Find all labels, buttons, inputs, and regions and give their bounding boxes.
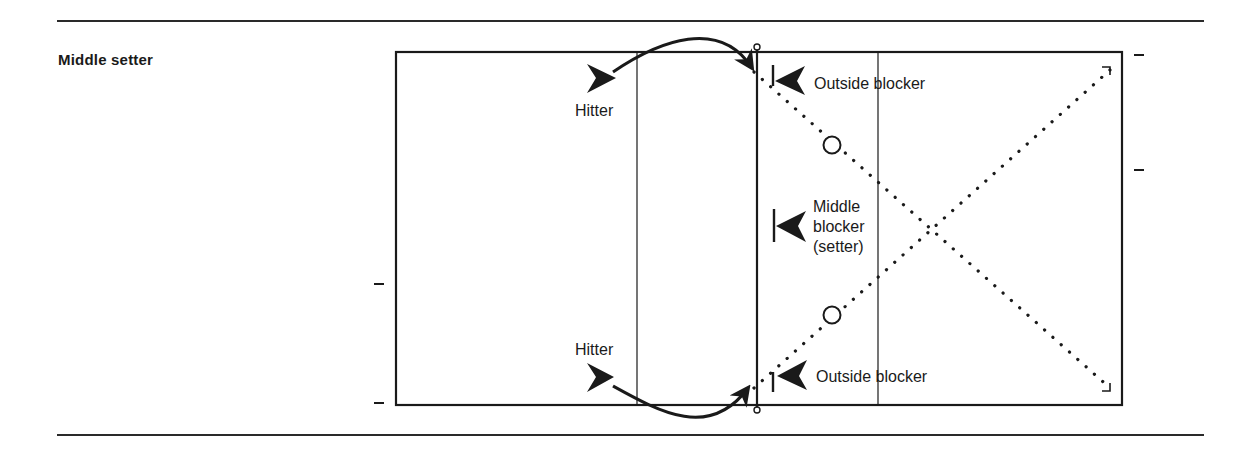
outside-blocker-top-label: Outside blocker (814, 75, 926, 92)
dotted-path-bottom-to-top (754, 70, 1110, 388)
attack-path-bottom (613, 386, 748, 417)
volleyball-court-diagram: Hitter Hitter Outside blocker Middle blo… (0, 0, 1252, 452)
defender-lower-icon (824, 307, 841, 324)
outside-blocker-bottom-label: Outside blocker (816, 368, 928, 385)
middle-blocker-label-line3: (setter) (813, 238, 864, 255)
hitter-top-label: Hitter (575, 102, 614, 119)
corner-marker-bottom (1102, 383, 1110, 391)
tick-marks (374, 55, 1144, 403)
outside-blocker-top-icon (773, 65, 805, 95)
middle-blocker-label-line2: blocker (813, 218, 865, 235)
court-boundary (396, 52, 1122, 405)
hitter-bottom-icon (587, 363, 614, 392)
hitter-bottom-label: Hitter (575, 341, 614, 358)
net (754, 44, 760, 413)
middle-blocker-icon (774, 209, 806, 242)
defender-upper-icon (824, 137, 841, 154)
dotted-path-top-to-bottom (754, 72, 1110, 388)
attack-path-top (613, 39, 752, 72)
hitter-top-icon (587, 64, 616, 93)
middle-blocker-label-line1: Middle (813, 198, 860, 215)
